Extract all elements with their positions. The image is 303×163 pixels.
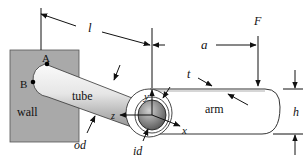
label-arm: arm	[205, 102, 224, 116]
tube-end	[126, 89, 172, 137]
tube-wall-arrow	[114, 65, 120, 80]
diagram-canvas: l a F t h A B wall tube arm od id y x z	[0, 0, 303, 163]
label-point-a: A	[42, 52, 50, 64]
label-axis-x: x	[181, 124, 187, 136]
label-force-f: F	[253, 14, 262, 28]
point-b-marker	[31, 80, 36, 85]
label-point-b: B	[20, 78, 27, 90]
label-tube: tube	[72, 89, 93, 103]
label-axis-y: y	[143, 90, 149, 102]
label-h: h	[293, 105, 299, 119]
label-axis-z: z	[110, 110, 115, 121]
tube-arm-diagram: l a F t h A B wall tube arm od id y x z	[0, 0, 303, 163]
label-id: id	[133, 144, 143, 158]
label-wall: wall	[17, 105, 38, 119]
label-t: t	[187, 67, 191, 81]
label-od: od	[74, 138, 87, 152]
label-a: a	[201, 37, 208, 52]
dimension-l	[41, 14, 150, 45]
label-l: l	[88, 20, 92, 35]
od-arrow	[87, 116, 95, 133]
